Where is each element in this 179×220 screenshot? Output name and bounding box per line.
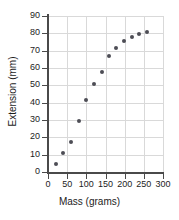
y-axis-tick <box>42 68 47 69</box>
y-axis-tick <box>42 16 47 17</box>
x-axis-tick-label: 300 <box>155 180 170 189</box>
y-axis-tick-label: 60 <box>30 63 40 72</box>
y-axis-tick <box>42 120 47 121</box>
y-axis-tick-label: 90 <box>30 11 40 20</box>
data-point <box>54 162 58 166</box>
gridline-vertical <box>106 16 107 172</box>
x-axis-tick-label: 50 <box>62 180 72 189</box>
y-axis-title: Extension (mm) <box>7 22 18 162</box>
y-axis-tick <box>42 33 47 34</box>
gridline-vertical <box>163 16 164 172</box>
x-axis-tick-label: 250 <box>136 180 151 189</box>
y-axis-tick-label: 30 <box>30 115 40 124</box>
x-axis-tick-label: 0 <box>45 180 50 189</box>
y-axis-tick <box>42 51 47 52</box>
y-axis-tick-label: 50 <box>30 80 40 89</box>
data-point <box>130 35 134 39</box>
data-point <box>137 32 141 36</box>
y-axis-tick <box>42 137 47 138</box>
data-point <box>100 70 104 74</box>
data-point <box>61 151 65 155</box>
data-point <box>145 30 149 34</box>
x-axis-title: Mass (grams) <box>0 196 179 207</box>
plot-area <box>48 16 163 172</box>
y-axis-tick <box>42 103 47 104</box>
y-axis-tick <box>42 155 47 156</box>
data-point <box>77 119 81 123</box>
y-axis-tick-label: 10 <box>30 150 40 159</box>
y-axis-tick-label: 20 <box>30 132 40 141</box>
x-axis-tick-label: 150 <box>98 180 113 189</box>
y-axis-tick <box>42 172 47 173</box>
gridline-vertical <box>86 16 87 172</box>
data-point <box>69 140 73 144</box>
extension-vs-mass-scatter-chart: 0102030405060708090 050100150200250300 E… <box>0 0 179 220</box>
y-axis-tick-label: 70 <box>30 46 40 55</box>
data-point <box>122 39 126 43</box>
x-axis-tick-label: 200 <box>117 180 132 189</box>
x-axis-tick-label: 100 <box>79 180 94 189</box>
data-point <box>84 98 88 102</box>
gridline-vertical <box>144 16 145 172</box>
gridline-vertical <box>67 16 68 172</box>
y-axis-tick <box>42 85 47 86</box>
y-axis-tick-label: 0 <box>35 167 40 176</box>
y-axis-tick-label: 80 <box>30 28 40 37</box>
data-point <box>107 54 111 58</box>
y-axis-line <box>47 14 49 174</box>
data-point <box>114 46 118 50</box>
y-axis-tick-label: 40 <box>30 98 40 107</box>
